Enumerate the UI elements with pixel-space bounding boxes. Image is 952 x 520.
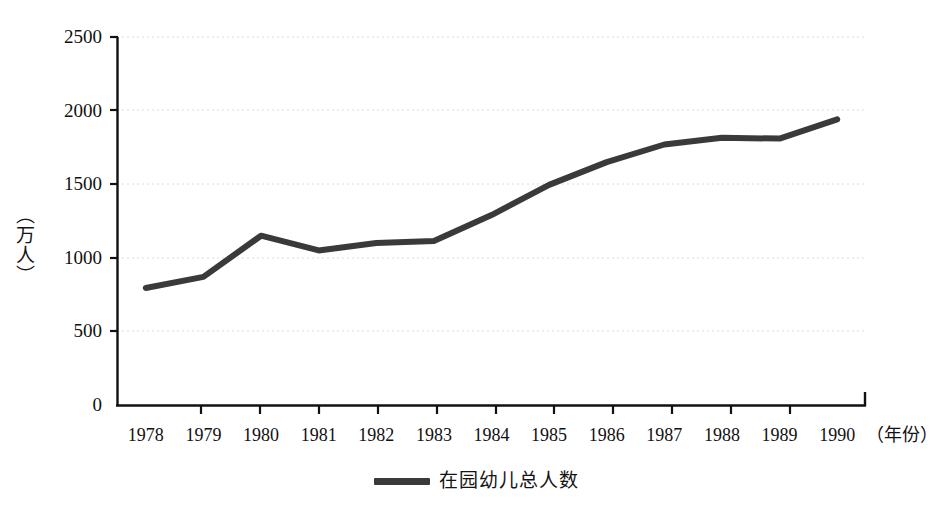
gridlines bbox=[117, 37, 866, 331]
chart-page: （万人） 05001000150020002500 19781979198019… bbox=[0, 0, 952, 520]
y-tick-label: 2000 bbox=[34, 101, 102, 120]
x-axis-tick-labels: 1978197919801981198219831984198519861987… bbox=[0, 424, 952, 452]
y-tick-label: 500 bbox=[34, 321, 102, 340]
x-tick-label: 1990 bbox=[801, 424, 873, 446]
chart-legend: 在园幼儿总人数 bbox=[0, 470, 952, 492]
x-axis-title: （年份） bbox=[866, 424, 938, 446]
y-tick-label: 1500 bbox=[34, 174, 102, 193]
line-chart-figure: （万人） 05001000150020002500 19781979198019… bbox=[0, 0, 952, 520]
y-tick-label: 1000 bbox=[34, 248, 102, 267]
data-series-line bbox=[146, 119, 837, 288]
y-tick-label: 2500 bbox=[34, 27, 102, 46]
legend-label: 在园幼儿总人数 bbox=[439, 470, 579, 492]
y-tick-label: 0 bbox=[34, 395, 102, 414]
legend-line-swatch bbox=[374, 478, 430, 485]
